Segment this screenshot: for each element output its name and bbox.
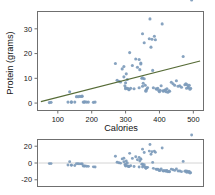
data-point: [138, 58, 141, 61]
x-tick-label: 300: [119, 115, 131, 124]
data-point: [150, 153, 153, 156]
data-point: [129, 87, 132, 90]
x-tick-label: 100: [52, 115, 64, 124]
y-tick-label: 20: [24, 142, 32, 151]
data-point: [148, 150, 151, 153]
data-point: [68, 160, 71, 163]
main-scatter-svg: Protein (grams) Calories 0102030 1002003…: [0, 0, 215, 135]
data-point: [154, 151, 157, 154]
data-point: [138, 86, 141, 89]
main-scatter-panel: Protein (grams) Calories 0102030 1002003…: [0, 0, 215, 135]
data-point: [153, 35, 156, 38]
data-point: [189, 87, 192, 90]
data-point: [50, 101, 53, 104]
data-point: [124, 81, 127, 84]
y-tick-label: 30: [24, 25, 32, 34]
y-tick-label: -20: [21, 175, 32, 184]
x-tick-label: 500: [187, 115, 199, 124]
y-tick-label: 0: [28, 159, 32, 168]
data-point: [180, 86, 183, 89]
data-point: [154, 38, 157, 41]
data-point: [148, 17, 151, 20]
data-point: [136, 66, 139, 69]
x-tick-label: 400: [153, 115, 165, 124]
y-tick-label: 20: [24, 49, 32, 58]
data-point: [68, 90, 71, 93]
data-point: [149, 46, 152, 49]
data-point: [168, 170, 171, 173]
data-point: [125, 72, 128, 75]
data-point: [70, 100, 73, 103]
data-point: [141, 148, 144, 151]
x-axis-title: Calories: [104, 123, 138, 133]
data-point: [188, 84, 191, 87]
data-point: [190, 134, 193, 137]
data-point: [122, 157, 125, 160]
data-point: [141, 85, 144, 88]
data-points-group: [48, 0, 193, 104]
data-point: [129, 164, 132, 167]
data-point: [94, 101, 97, 104]
data-point: [134, 155, 137, 158]
data-point: [138, 68, 141, 71]
y-axis-title: Protein (grams): [5, 31, 15, 94]
data-point: [114, 155, 117, 158]
y-axis-ticks: 0102030: [24, 25, 38, 108]
data-point: [182, 55, 185, 58]
data-point: [122, 65, 125, 68]
data-point: [139, 62, 142, 65]
x-tick-label: 200: [86, 115, 98, 124]
data-point: [126, 162, 129, 165]
data-point: [160, 84, 163, 87]
data-point: [87, 165, 90, 168]
data-point: [139, 158, 142, 161]
y-tick-label: 0: [28, 99, 32, 108]
data-point: [149, 143, 152, 146]
y-tick-label: 10: [24, 74, 32, 83]
data-point: [168, 90, 171, 93]
data-point: [128, 51, 131, 54]
data-point: [161, 147, 164, 150]
data-point: [189, 171, 192, 174]
residual-svg: -20020: [0, 135, 215, 195]
data-point: [152, 167, 155, 170]
data-point: [50, 162, 53, 165]
data-point: [143, 151, 146, 154]
data-point: [70, 164, 73, 167]
data-point: [146, 86, 149, 89]
data-point: [144, 84, 147, 87]
data-point: [66, 101, 69, 104]
data-point: [138, 165, 141, 168]
data-point: [150, 38, 153, 41]
data-point: [151, 161, 154, 164]
data-point: [128, 152, 131, 155]
data-point: [134, 57, 137, 60]
data-point: [73, 101, 76, 104]
data-point: [151, 69, 154, 72]
data-point: [131, 157, 134, 160]
data-point: [114, 62, 117, 65]
figure-container: Protein (grams) Calories 0102030 1002003…: [0, 0, 215, 195]
residual-panel: -20020: [0, 135, 215, 195]
data-point: [81, 95, 84, 98]
data-point: [133, 165, 136, 168]
data-point: [190, 0, 193, 2]
data-point: [175, 79, 178, 82]
data-point: [182, 160, 185, 163]
x-axis-ticks: 100200300400500: [52, 111, 200, 125]
data-point: [94, 165, 97, 168]
data-point: [180, 170, 183, 173]
data-point: [122, 75, 125, 78]
data-point: [87, 101, 90, 104]
data-point: [141, 32, 144, 35]
data-point: [119, 162, 122, 165]
data-point: [161, 22, 164, 25]
data-point: [173, 84, 176, 87]
data-point: [67, 164, 70, 167]
residual-y-axis-ticks: -20020: [21, 142, 37, 185]
data-point: [159, 89, 162, 92]
data-point: [143, 41, 146, 44]
data-point: [143, 77, 146, 80]
data-point: [152, 86, 155, 89]
data-point: [148, 37, 151, 40]
